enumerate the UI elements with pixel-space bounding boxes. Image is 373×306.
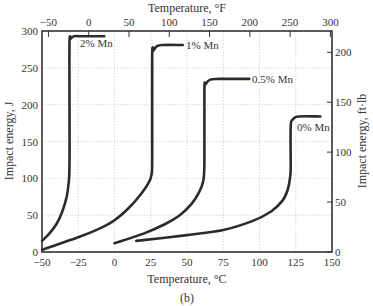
x2-tick-label: 0 [86,16,92,28]
y-tick-label: 50 [27,209,39,221]
x-tick-label: 125 [288,256,305,268]
y2-tick-label: 150 [335,96,352,108]
x-tick-label: 100 [251,256,268,268]
x2-tick-label: 300 [322,16,339,28]
y2-tick-label: 100 [335,146,352,158]
y-tick-label: 200 [22,99,39,111]
x2-tick-label: 100 [161,16,178,28]
y2-tick-label: 50 [335,196,347,208]
y2-tick-label: 0 [335,246,341,258]
y-tick-label: 250 [22,62,39,74]
curve-series-1 [42,45,183,250]
y-tick-label: 300 [22,25,39,37]
label-05pct-mn: 0.5% Mn [252,73,293,85]
impact-energy-chart: −50−250255075100125150050100150200250300… [0,0,373,306]
grid-lines [42,31,332,252]
x-tick-label: 75 [218,256,230,268]
x-tick-label: 50 [182,256,194,268]
x-tick-label: 25 [145,256,157,268]
y-tick-label: 150 [22,136,39,148]
x2-tick-label: 50 [124,16,136,28]
label-2pct-mn: 2% Mn [80,37,113,49]
x2-tick-label: −50 [40,16,58,28]
x2-tick-label: 200 [242,16,259,28]
y-tick-label: 0 [33,246,39,258]
curve-series-0 [42,36,104,241]
x2-tick-label: 150 [201,16,218,28]
figure-caption: (b) [180,291,194,305]
label-0pct-mn: 0% Mn [297,121,330,133]
label-1pct-mn: 1% Mn [186,39,219,51]
y2-tick-label: 200 [335,46,352,58]
x2-tick-label: 250 [282,16,299,28]
right-axis-title: Impact energy, ft·lb [355,94,369,189]
top-axis-title: Temperature, °F [148,1,226,15]
bottom-axis-title: Temperature, °C [147,272,226,286]
curve-series-2 [115,79,250,243]
left-axis-title: Impact energy, J [2,101,16,180]
y-tick-label: 100 [22,172,39,184]
x-tick-label: 0 [112,256,118,268]
x-tick-label: −25 [70,256,88,268]
